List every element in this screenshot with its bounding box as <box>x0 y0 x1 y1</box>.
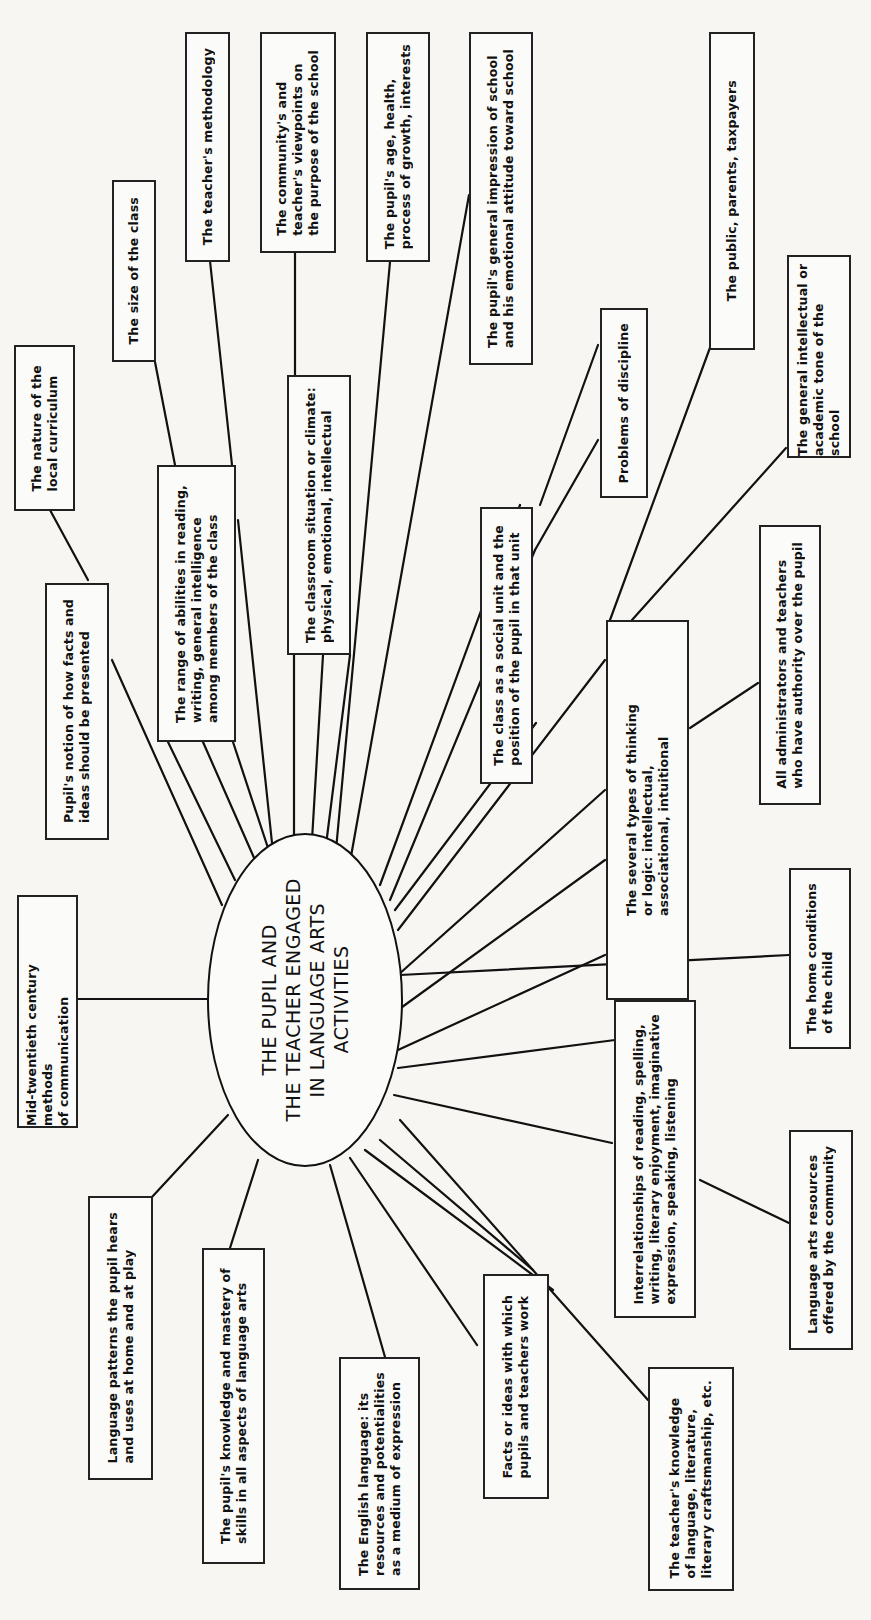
node-label: Language arts resources offered by the c… <box>805 1146 837 1334</box>
node-label: The pupil's knowledge and mastery of ski… <box>218 1268 250 1544</box>
node-administrators: All administrators and teachers who have… <box>759 525 821 805</box>
line-local-curriculum <box>50 510 88 580</box>
node-label: The general intellectual or academic ton… <box>795 257 843 456</box>
node-label: Interrelationships of reading, spelling,… <box>631 1014 679 1305</box>
node-label: Mid-twentieth century methods of communi… <box>24 897 72 1126</box>
line-english-language <box>330 1165 385 1357</box>
node-public-parents: The public, parents, taxpayers <box>709 32 755 350</box>
node-pupil-notion: Pupil's notion of how facts and ideas sh… <box>45 583 109 840</box>
line-interrelationships-2 <box>394 1095 612 1143</box>
node-interrelationships: Interrelationships of reading, spelling,… <box>614 1000 696 1318</box>
node-english-language: The English language: its resources and … <box>339 1357 420 1590</box>
line-community-resources <box>700 1180 789 1223</box>
node-community-viewpoints: The community's and teacher's viewpoints… <box>260 32 336 253</box>
node-label: The classroom situation or climate: phys… <box>303 387 335 643</box>
node-local-curriculum: The nature of the local curriculum <box>14 345 75 511</box>
center-topic-label: THE PUPIL AND THE TEACHER ENGAGED IN LAN… <box>257 878 353 1121</box>
node-label: The English language: its resources and … <box>356 1372 404 1576</box>
node-size-of-class: The size of the class <box>112 180 156 362</box>
line-pupil-impression <box>350 195 469 862</box>
node-classroom-situation: The classroom situation or climate: phys… <box>287 375 351 655</box>
line-classroom-2 <box>312 655 323 840</box>
node-pupil-impression: The pupil's general impression of school… <box>469 32 533 365</box>
node-language-patterns: Language patterns the pupil hears and us… <box>88 1196 153 1480</box>
line-teacher-methodology <box>210 261 232 465</box>
node-label: The class as a social unit and the posit… <box>491 525 523 766</box>
node-community-resources: Language arts resources offered by the c… <box>789 1130 853 1350</box>
node-label: The teacher's knowledge of language, lit… <box>667 1380 715 1578</box>
node-mid-twentieth: Mid-twentieth century methods of communi… <box>17 895 78 1128</box>
node-class-social-unit: The class as a social unit and the posit… <box>480 507 533 784</box>
line-size-of-class <box>155 362 175 465</box>
node-label: The teacher's methodology <box>200 48 216 245</box>
node-teacher-methodology: The teacher's methodology <box>185 32 230 262</box>
node-label: The pupil's age, health, process of grow… <box>382 44 414 249</box>
node-problems-discipline: Problems of discipline <box>600 308 648 498</box>
line-discipline-1 <box>540 345 598 505</box>
node-label: Pupil's notion of how facts and ideas sh… <box>61 599 93 823</box>
node-intellectual-tone: The general intellectual or academic ton… <box>787 255 851 458</box>
node-label: Problems of discipline <box>616 323 632 483</box>
node-facts-ideas: Facts or ideas with which pupils and tea… <box>483 1274 549 1499</box>
node-label: All administrators and teachers who have… <box>774 542 806 789</box>
center-topic: THE PUPIL AND THE TEACHER ENGAGED IN LAN… <box>210 835 400 1165</box>
line-facts-ideas-1 <box>380 1140 533 1270</box>
line-pupil-knowledge <box>230 1160 258 1248</box>
node-types-thinking: The several types of thinking or logic: … <box>606 620 689 1000</box>
node-label: The pupil's general impression of school… <box>485 49 517 348</box>
line-interrelationships-1 <box>398 1040 615 1068</box>
node-label: Language patterns the pupil hears and us… <box>105 1212 137 1463</box>
node-label: The community's and teacher's viewpoints… <box>274 50 322 236</box>
node-teacher-knowledge: The teacher's knowledge of language, lit… <box>648 1367 734 1591</box>
node-label: The range of abilities in reading, writi… <box>173 485 221 723</box>
node-label: The size of the class <box>126 197 142 344</box>
node-pupil-knowledge: The pupil's knowledge and mastery of ski… <box>202 1248 265 1564</box>
node-pupil-age-health: The pupil's age, health, process of grow… <box>366 32 430 262</box>
node-home-conditions: The home conditions of the child <box>789 868 851 1049</box>
line-administrators <box>690 683 758 728</box>
node-label: The public, parents, taxpayers <box>724 80 740 301</box>
node-label: The nature of the local curriculum <box>29 365 61 492</box>
node-label: The several types of thinking or logic: … <box>624 704 672 916</box>
node-range-abilities: The range of abilities in reading, writi… <box>157 465 236 742</box>
line-range-4 <box>238 520 272 843</box>
node-label: Facts or ideas with which pupils and tea… <box>500 1295 532 1479</box>
node-label: The home conditions of the child <box>804 883 836 1034</box>
